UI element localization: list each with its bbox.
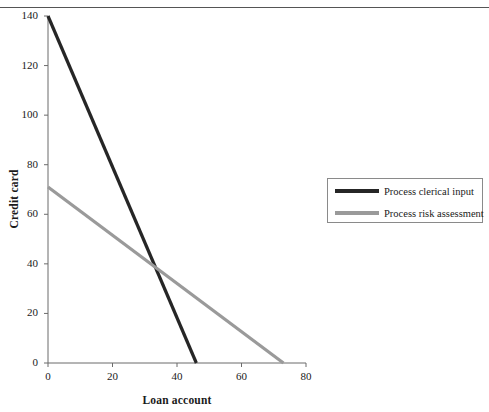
y-axis-tick-label: 20 [4,306,38,318]
series-line-1 [48,16,196,363]
chart-legend: Process clerical inputProcess risk asses… [327,178,483,223]
x-axis-tick-label: 0 [28,370,68,382]
y-axis-tick-label: 140 [4,9,38,21]
series-line-2 [48,187,283,363]
x-axis-tick-label: 80 [286,370,326,382]
legend-swatch-line-icon [335,189,379,193]
legend-item-label: Process clerical input [384,186,474,197]
y-axis-ticks [44,16,48,363]
y-axis-tick-label: 120 [4,59,38,71]
x-axis-tick-label: 40 [157,370,197,382]
legend-swatch-line-icon [335,211,379,215]
x-axis-tick-label: 60 [222,370,262,382]
chart-figure: 020406080100120140 020406080 Credit card… [0,8,489,412]
legend-item-label: Process risk assessment [384,208,484,219]
cut-off-header-text [0,0,489,6]
x-axis-title: Loan account [48,394,306,406]
axis-lines [48,16,306,363]
x-axis-ticks [48,363,306,367]
legend-item[interactable]: Process clerical input [328,180,484,202]
legend-item[interactable]: Process risk assessment [328,202,484,224]
y-axis-tick-label: 100 [4,108,38,120]
data-series-group [48,16,283,363]
y-axis-title: Credit card [8,149,20,249]
y-axis-tick-label: 40 [4,257,38,269]
y-axis-tick-label: 0 [4,356,38,368]
x-axis-tick-label: 20 [93,370,133,382]
